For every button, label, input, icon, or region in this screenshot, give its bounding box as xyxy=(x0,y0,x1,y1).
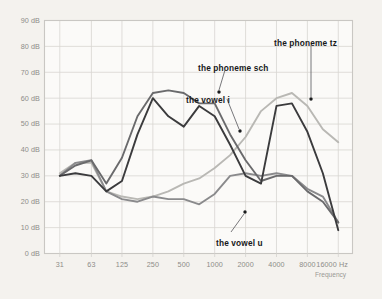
annotation-dot-vowel-i xyxy=(238,129,241,132)
y-axis-tick-label: 60 dB xyxy=(0,94,40,103)
y-axis-tick-label: 80 dB xyxy=(0,42,40,51)
x-axis-title: Frequency xyxy=(315,271,346,278)
annotation-dot-phoneme-tz xyxy=(309,97,312,100)
series-annotation-vowel-i: the vowel i xyxy=(186,95,230,105)
y-axis-tick-label: 70 dB xyxy=(0,68,40,77)
annotation-dot-phoneme-sch xyxy=(217,90,220,93)
chart-figure: 0 dB10 dB20 dB30 dB40 dB50 dB60 dB70 dB8… xyxy=(0,0,382,299)
y-axis-tick-label: 0 dB xyxy=(0,249,40,258)
plot-area-background xyxy=(45,21,353,254)
annotation-dot-vowel-u xyxy=(243,210,246,213)
y-axis-tick-label: 20 dB xyxy=(0,197,40,206)
y-axis-tick-label: 90 dB xyxy=(0,16,40,25)
series-annotation-phoneme-sch: the phoneme sch xyxy=(198,63,268,73)
y-axis-tick-label: 30 dB xyxy=(0,171,40,180)
series-annotation-phoneme-tz: the phoneme tz xyxy=(274,38,337,48)
y-axis-tick-label: 50 dB xyxy=(0,119,40,128)
x-axis-tick-label: 16000 Hz xyxy=(316,260,368,269)
y-axis-tick-label: 10 dB xyxy=(0,223,40,232)
series-annotation-vowel-u: the vowel u xyxy=(216,238,263,248)
y-axis-tick-label: 40 dB xyxy=(0,145,40,154)
